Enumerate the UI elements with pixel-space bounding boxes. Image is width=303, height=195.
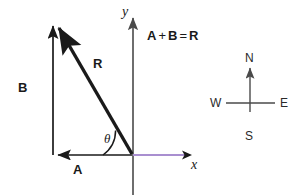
vector-r-label: R (93, 57, 102, 70)
vector-a-label: A (73, 163, 82, 176)
equation-term-b: B (168, 28, 177, 43)
compass-east-label: E (280, 97, 288, 109)
vector-equation: A+B=R (147, 28, 198, 43)
vector-b-label: B (18, 81, 27, 94)
y-axis-label: y (122, 5, 128, 19)
x-axis-label: x (191, 158, 197, 172)
equation-equals: = (177, 28, 189, 43)
equation-term-r: R (189, 28, 198, 43)
vector-diagram-figure: A+B=R B A R θ y x N S E W (0, 0, 303, 195)
equation-plus: + (156, 28, 168, 43)
compass-north-label: N (245, 52, 254, 64)
vector-r-line (59, 28, 132, 154)
compass-south-label: S (245, 130, 253, 142)
compass-west-label: W (210, 97, 221, 109)
equation-term-a: A (147, 28, 156, 43)
angle-theta-label: θ (104, 132, 110, 145)
